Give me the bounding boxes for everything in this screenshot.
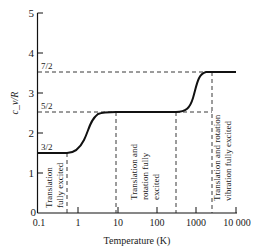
svg-text:5/2: 5/2 — [41, 101, 53, 111]
heat-capacity-chart: 5 4 3 2 1 0 0.1 1 10 100 1000 10 000 Tem… — [0, 0, 259, 249]
svg-text:Translation and: Translation and — [129, 144, 139, 200]
svg-text:rotation fully: rotation fully — [140, 152, 150, 200]
svg-text:1: 1 — [76, 217, 81, 228]
svg-text:7/2: 7/2 — [41, 61, 53, 71]
svg-text:3: 3 — [29, 87, 35, 99]
x-tick-labels: 0.1 1 10 100 1000 10 000 — [33, 217, 251, 228]
svg-text:1000: 1000 — [186, 217, 206, 228]
annotation-translation-rotation-vibration: Translation and rotation vibration fully… — [212, 114, 233, 201]
heat-capacity-curve — [38, 72, 236, 153]
annotation-translation-rotation: Translation and rotation fully excited — [129, 144, 161, 200]
svg-text:vibration fully excited: vibration fully excited — [223, 121, 233, 201]
y-axis-label: c_v/R — [9, 92, 20, 115]
svg-text:Translation and rotation: Translation and rotation — [212, 114, 222, 201]
svg-text:fully excited: fully excited — [55, 162, 65, 208]
plateau-labels: 3/2 5/2 7/2 — [41, 61, 53, 152]
svg-text:0.1: 0.1 — [33, 217, 46, 228]
y-tick-labels: 5 4 3 2 1 0 — [29, 7, 37, 218]
svg-text:2: 2 — [29, 127, 35, 139]
region-annotations: Translation fully excited Translation an… — [44, 114, 233, 208]
svg-text:10 000: 10 000 — [223, 217, 251, 228]
svg-text:3/2: 3/2 — [41, 142, 53, 152]
svg-text:100: 100 — [150, 217, 165, 228]
svg-text:Translation: Translation — [44, 167, 54, 208]
annotation-translation: Translation fully excited — [44, 162, 65, 208]
svg-text:1: 1 — [29, 167, 35, 179]
svg-text:5: 5 — [29, 7, 35, 19]
svg-text:excited: excited — [151, 174, 161, 200]
svg-text:10: 10 — [113, 217, 123, 228]
x-axis-label: Temperature (K) — [104, 235, 171, 247]
svg-text:4: 4 — [29, 47, 35, 59]
